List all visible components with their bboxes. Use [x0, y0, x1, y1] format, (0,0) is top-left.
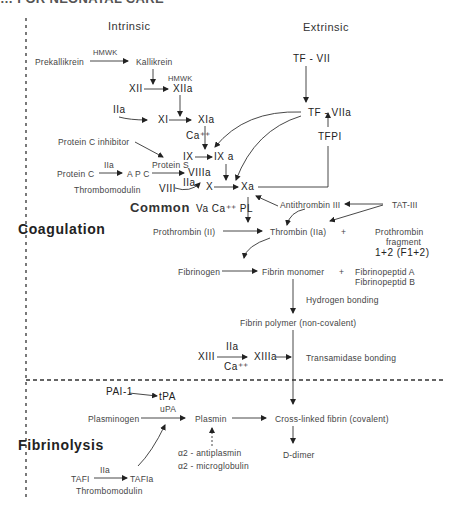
hmwk-cofactor-label: HMWK — [93, 48, 118, 58]
prothrombin-fragment-f12: 1+2 (F1+2) — [375, 248, 429, 258]
protein-c-inhibitor-node: Protein C inhibitor — [58, 137, 129, 147]
prothrombin-fragment-line-2: fragment — [386, 237, 421, 247]
thrombomodulin-label-2: Thrombomodulin — [76, 486, 143, 496]
calcium-label-1: Ca⁺⁺ — [186, 131, 211, 141]
prothrombin-node: Prothrombin (II) — [153, 227, 215, 237]
tat-iii-node: TAT-III — [392, 200, 418, 210]
cross-linked-fibrin-node: Cross-linked fibrin (covalent) — [275, 414, 389, 424]
alpha2-antiplasmin-node: α2 - antiplasmin — [178, 448, 241, 458]
factor-xiiia-node: XIIIa — [254, 352, 277, 362]
factor-xii-node: XII — [129, 84, 143, 94]
extrinsic-pathway-title: Extrinsic — [303, 22, 349, 32]
plasmin-node: Plasmin — [195, 414, 227, 424]
tfpi-node: TFPI — [318, 132, 342, 142]
coagulation-section-label: Coagulation — [18, 224, 105, 234]
tf-viia-node: TF - VIIa — [308, 108, 351, 118]
thrombin-iia-label-5: IIa — [100, 465, 110, 475]
fibrinogen-node: Fibrinogen — [178, 267, 220, 277]
protein-s-node: Protein S — [152, 160, 189, 170]
tafia-node: TAFIa — [130, 474, 154, 484]
fibrin-polymer-node: Fibrin polymer (non-covalent) — [240, 318, 356, 328]
plus-sign-2: + — [339, 267, 344, 277]
factor-xiii-node: XIII — [198, 352, 215, 362]
tpa-node: tPA — [159, 392, 176, 402]
tafi-node: TAFI — [71, 474, 90, 484]
prekallikrein-node: Prekallikrein — [35, 57, 84, 67]
va-ca-pl-label: Va Ca⁺⁺ PL — [196, 204, 253, 214]
upa-node: uPA — [160, 404, 176, 414]
antithrombin-iii-node: Antithrombin III — [280, 200, 340, 210]
fibrin-monomer-node: Fibrin monomer — [262, 267, 324, 277]
pai-1-node: PAI-1 — [106, 387, 133, 397]
thrombomodulin-label-1: Thrombomodulin — [74, 185, 141, 195]
factor-xiia-node: XIIa — [173, 84, 193, 94]
d-dimer-node: D-dimer — [283, 450, 315, 460]
thrombin-iia-label-1: IIa — [113, 105, 126, 115]
alpha2-microglobulin-node: α2 - microglobulin — [178, 461, 249, 471]
plasminogen-node: Plasminogen — [88, 414, 139, 424]
tf-vii-node: TF - VII — [293, 54, 330, 64]
intrinsic-pathway-title: Intrinsic — [108, 21, 150, 31]
factor-xa-node: Xa — [241, 182, 254, 192]
fibrinolysis-section-label: Fibrinolysis — [18, 440, 104, 450]
hydrogen-bonding-label: Hydrogen bonding — [306, 295, 379, 305]
factor-ixa-node: IX a — [214, 152, 234, 162]
factor-x-node: X — [206, 182, 213, 192]
plus-sign-1: + — [341, 227, 346, 237]
fibrinopeptide-a-node: Fibrinopeptid A — [355, 267, 415, 277]
thrombin-iia-label-4: IIa — [226, 342, 239, 352]
factor-viii-node: VIII — [159, 184, 176, 194]
factor-xia-node: XIa — [198, 115, 215, 125]
prothrombin-fragment-line-1: Prothrombin — [375, 227, 424, 237]
thrombin-node: Thrombin (IIa) — [270, 227, 326, 237]
thrombin-iia-label-2: IIa — [104, 160, 114, 170]
activated-protein-c-node: A P C — [127, 169, 150, 179]
transamidase-bonding-label: Transamidase bonding — [306, 353, 396, 363]
fibrinopeptide-b-node: Fibrinopeptid B — [355, 277, 415, 287]
protein-c-node: Protein C — [57, 169, 94, 179]
thrombin-iia-label-3: IIa — [183, 178, 196, 188]
calcium-label-2: Ca⁺⁺ — [224, 362, 249, 372]
factor-xi-node: XI — [158, 115, 168, 125]
kallikrein-node: Kallikrein — [136, 57, 173, 67]
common-pathway-label: Common — [130, 203, 190, 213]
